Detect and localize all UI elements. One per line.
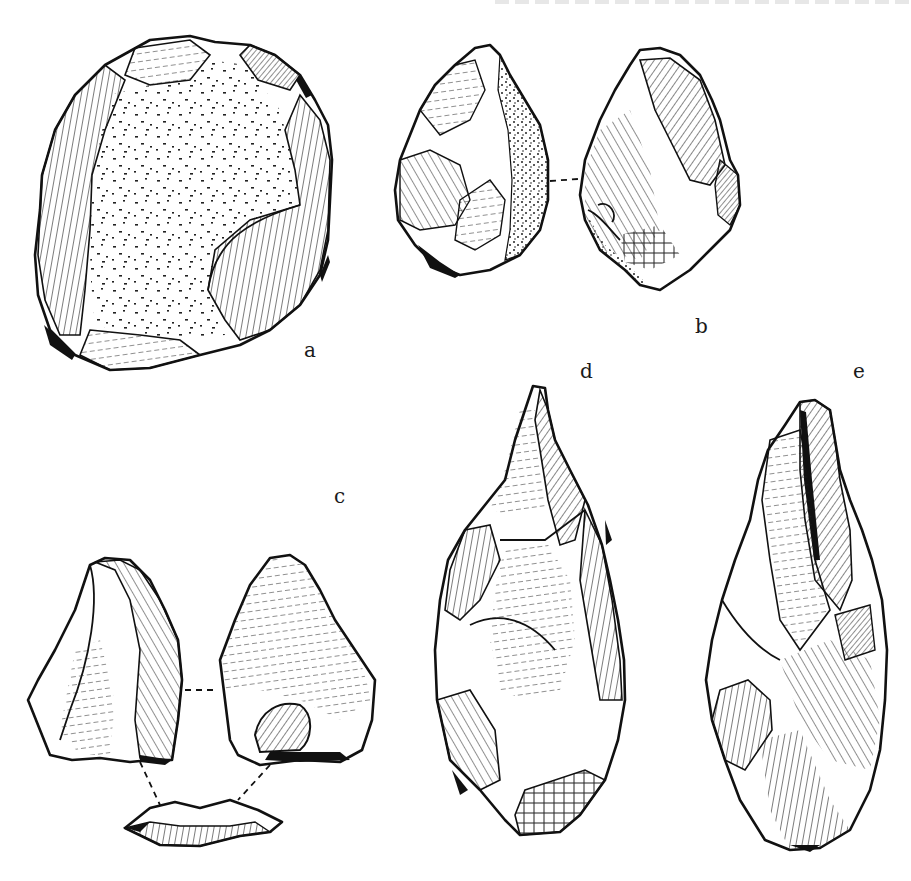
artifact-a-drawing bbox=[35, 36, 332, 370]
artifact-drawings bbox=[0, 0, 911, 881]
figure-label-c: c bbox=[334, 486, 345, 506]
figure-label-a: a bbox=[304, 340, 316, 360]
artifact-d-drawing bbox=[435, 386, 625, 835]
artifact-c-drawing bbox=[28, 555, 375, 846]
artifact-b-drawing bbox=[395, 45, 740, 290]
stone-tool-illustration-plate: a b c d e bbox=[0, 0, 911, 881]
figure-label-d: d bbox=[580, 361, 593, 381]
figure-label-b: b bbox=[695, 316, 708, 336]
figure-label-e: e bbox=[853, 361, 865, 381]
artifact-e-drawing bbox=[706, 400, 887, 852]
